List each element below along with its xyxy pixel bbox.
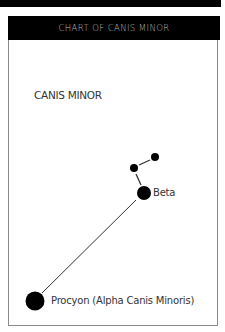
line-procyon-beta — [42, 200, 136, 293]
constellation-diagram — [0, 0, 225, 332]
line-beta-star3 — [136, 174, 141, 185]
line-star3-star4 — [139, 160, 150, 165]
star-procyon-icon — [26, 292, 45, 311]
star-label-procyon: Procyon (Alpha Canis Minoris) — [51, 295, 194, 306]
star-4-icon — [151, 153, 159, 161]
star-3-icon — [130, 164, 138, 172]
constellation-name: CANIS MINOR — [34, 89, 102, 101]
star-beta-icon — [137, 186, 151, 200]
star-label-beta: Beta — [153, 187, 175, 198]
